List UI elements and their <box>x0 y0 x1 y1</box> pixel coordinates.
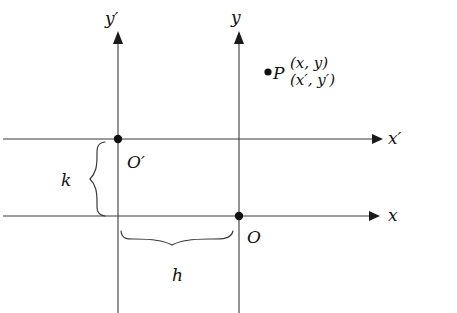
origin-label: O <box>247 229 261 246</box>
brace-k <box>90 142 105 216</box>
diagram-canvas <box>0 0 457 313</box>
translation-of-axes-diagram: y′ y x′ x O′ O P (x, y) (x′, y′) k h <box>0 0 457 313</box>
x-prime-axis-line <box>3 134 383 144</box>
y-axis-arrowhead <box>234 31 244 44</box>
y-axis-line <box>234 31 244 313</box>
x-prime-axis-arrowhead <box>372 134 383 144</box>
x-prime-axis-label: x′ <box>388 130 401 147</box>
origin-prime-dot <box>114 135 122 143</box>
origin-prime-label: O′ <box>127 154 145 171</box>
x-axis-label: x <box>388 207 398 224</box>
point-p-coordinates: (x, y) (x′, y′) <box>290 55 335 90</box>
brace-h <box>121 231 233 245</box>
point-p-coords-primed: (x′, y′) <box>290 72 335 89</box>
origin-dot <box>235 212 243 220</box>
y-prime-axis-arrowhead <box>113 31 123 44</box>
x-axis-arrowhead <box>369 211 380 221</box>
brace-h-label: h <box>172 267 183 284</box>
point-p-coords-unprimed: (x, y) <box>290 55 335 72</box>
x-axis-line <box>3 211 380 221</box>
y-prime-axis-line <box>113 31 123 313</box>
point-p-label: P <box>273 65 284 82</box>
y-prime-axis-label: y′ <box>105 10 118 27</box>
brace-k-label: k <box>61 172 71 189</box>
y-axis-label: y <box>231 9 241 26</box>
point-p-dot <box>264 68 271 75</box>
